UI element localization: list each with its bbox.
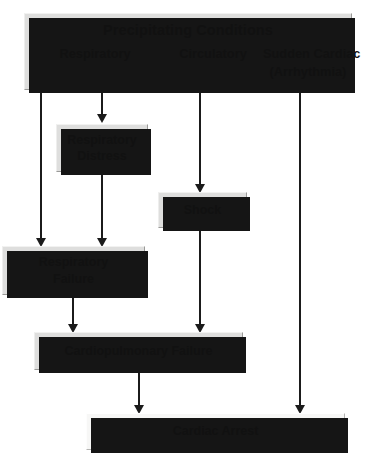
node-cardiopulmonary-failure[interactable]: Cardiopulmonary Failure [34, 332, 243, 370]
connector-precipitating-to-respiratory-distress [101, 90, 103, 116]
node-cardiac-arrest-label: Cardiac Arrest [173, 423, 259, 440]
page-title: Precipitating Conditions [25, 21, 351, 40]
node-cardiopulmonary-failure-label: Cardiopulmonary Failure [65, 343, 213, 360]
header-column-circulatory-label: Circulatory [163, 45, 263, 63]
connector-respiratory-distress-to-respiratory-failure [101, 172, 103, 242]
header-column-sudden-cardiac: Sudden Cardiac (Arrhythmia) [263, 45, 353, 80]
header-column-respiratory: Respiratory [37, 45, 153, 63]
connector-precipitating-to-shock [199, 90, 201, 190]
node-respiratory-failure-line1: Respiratory [39, 254, 108, 271]
node-respiratory-failure[interactable]: Respiratory Failure [2, 246, 145, 295]
connector-precipitating-to-cardiac-arrest [299, 90, 301, 409]
node-shock-label: Shock [184, 202, 222, 219]
connector-shock-to-cardiopulmonary-failure [199, 228, 201, 328]
node-cardiac-arrest[interactable]: Cardiac Arrest [86, 413, 345, 450]
arrowhead-precipitating-to-respiratory-distress [97, 114, 107, 123]
node-respiratory-distress-line2: Distress [77, 148, 126, 165]
header-column-sudden-cardiac-sublabel: (Arrhythmia) [263, 63, 353, 81]
header-column-circulatory: Circulatory [163, 45, 263, 63]
node-precipitating-conditions[interactable]: Precipitating Conditions Respiratory Cir… [24, 13, 352, 90]
header-column-sudden-cardiac-label: Sudden Cardiac [263, 45, 353, 63]
connector-precipitating-to-respiratory-failure [40, 90, 42, 242]
node-respiratory-distress-line1: Respiratory [67, 132, 136, 149]
flowchart-canvas: Precipitating Conditions Respiratory Cir… [0, 0, 366, 463]
node-shock[interactable]: Shock [158, 192, 247, 228]
connector-cardiopulmonary-failure-to-cardiac-arrest [138, 370, 140, 409]
node-respiratory-distress[interactable]: Respiratory Distress [56, 124, 148, 172]
node-respiratory-failure-line2: Failure [53, 271, 94, 288]
header-column-respiratory-label: Respiratory [37, 45, 153, 63]
